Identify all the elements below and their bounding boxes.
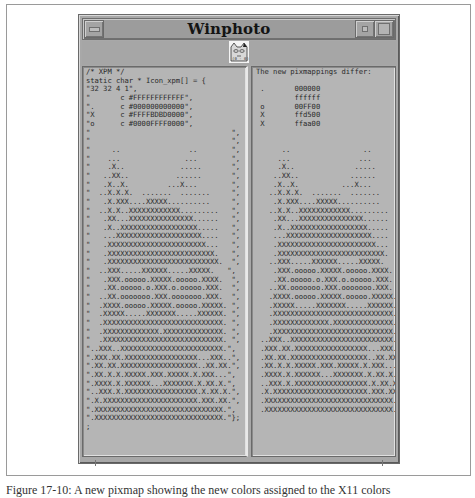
- pixmapping-diff-text: The new pixmappings differ: . 000000 fff…: [252, 67, 395, 414]
- minimize-icon: [362, 26, 368, 32]
- frame-tick: [382, 460, 383, 466]
- xpm-source-pane[interactable]: /* XPM */ static char * Icon_xpm[] = { "…: [82, 66, 248, 457]
- minimize-button[interactable]: [355, 20, 375, 38]
- title-bar[interactable]: Winphoto: [82, 18, 396, 40]
- winphoto-window: Winphoto (0 - 0) /* XPM */ static char *…: [78, 14, 400, 464]
- menu-bar-icon: [89, 27, 100, 32]
- maximize-button[interactable]: [374, 20, 394, 38]
- panes: /* XPM */ static char * Icon_xpm[] = { "…: [82, 66, 396, 457]
- pixmapping-diff-pane[interactable]: The new pixmappings differ: . 000000 fff…: [251, 66, 396, 457]
- maximize-icon: [378, 23, 390, 35]
- frame-tick: [95, 460, 96, 466]
- window-title: Winphoto: [105, 20, 353, 38]
- svg-text:(0 - 0): (0 - 0): [232, 56, 249, 61]
- window-menu-button[interactable]: [84, 20, 104, 38]
- xpm-source-text: /* XPM */ static char * Icon_xpm[] = { "…: [83, 67, 246, 432]
- figure-caption: Figure 17-10: A new pixmap showing the n…: [6, 483, 391, 498]
- cat-face-icon[interactable]: (0 - 0): [229, 41, 249, 63]
- icon-strip: (0 - 0): [82, 41, 396, 65]
